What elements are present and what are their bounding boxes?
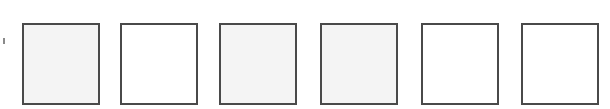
square-box-6[interactable]: [521, 23, 599, 105]
square-box-4[interactable]: [320, 23, 398, 105]
square-box-5[interactable]: [421, 23, 499, 105]
square-box-1[interactable]: [22, 23, 100, 105]
square-box-2[interactable]: [120, 23, 198, 105]
cropped-edge-mark: [3, 38, 5, 44]
square-box-3[interactable]: [219, 23, 297, 105]
